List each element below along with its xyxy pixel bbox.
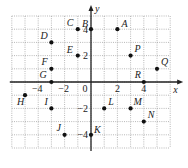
- x-axis-label: x: [172, 84, 178, 95]
- point-f: [49, 67, 53, 71]
- y-axis-arrow-icon: [89, 5, 94, 11]
- x-tick-label: 0: [83, 83, 88, 94]
- point-c: [76, 27, 80, 31]
- point-j: [63, 133, 67, 137]
- point-l: [102, 106, 106, 110]
- x-tick-label: −2: [58, 83, 69, 94]
- point-label-p: P: [134, 43, 141, 54]
- coordinate-plane: xy −4−202442−2−4 ABCDEFGHIJKLMNPQR: [0, 0, 188, 168]
- point-label-k: K: [93, 124, 102, 135]
- point-i: [49, 106, 53, 110]
- y-tick-label: −2: [77, 103, 88, 114]
- data-points: ABCDEFGHIJKLMNPQR: [16, 17, 169, 137]
- point-label-i: I: [43, 96, 48, 107]
- point-label-h: H: [16, 96, 25, 107]
- point-label-c: C: [67, 17, 74, 28]
- point-e: [76, 54, 80, 58]
- x-axis-arrow-icon: [177, 80, 183, 85]
- point-a: [115, 27, 119, 31]
- y-axis-label: y: [94, 3, 100, 14]
- point-label-a: A: [120, 18, 128, 29]
- point-label-b: B: [82, 18, 88, 29]
- point-k: [89, 133, 93, 137]
- point-g: [49, 80, 53, 84]
- x-tick-label: −4: [32, 83, 43, 94]
- point-label-l: L: [107, 96, 114, 107]
- point-p: [129, 54, 133, 58]
- point-m: [129, 106, 133, 110]
- y-tick-label: −4: [77, 129, 88, 140]
- x-tick-label: 2: [115, 83, 120, 94]
- point-n: [142, 120, 146, 124]
- point-label-d: D: [39, 30, 48, 41]
- point-r: [142, 80, 146, 84]
- point-q: [155, 67, 159, 71]
- point-label-e: E: [66, 44, 73, 55]
- point-label-j: J: [57, 122, 62, 133]
- y-tick-label: 2: [83, 50, 88, 61]
- point-label-r: R: [134, 69, 141, 80]
- point-label-f: F: [40, 56, 48, 67]
- x-tick-label: 4: [141, 83, 146, 94]
- point-label-q: Q: [161, 56, 169, 67]
- point-label-g: G: [39, 69, 46, 80]
- point-d: [49, 40, 53, 44]
- point-label-n: N: [147, 109, 156, 120]
- point-label-m: M: [133, 96, 143, 107]
- point-b: [89, 27, 93, 31]
